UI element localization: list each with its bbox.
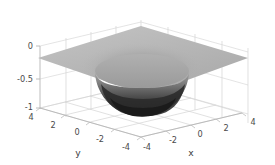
x-tick-labels: -4 -2 0 2 4: [143, 117, 256, 152]
y-tick-label: -4: [122, 142, 130, 152]
z-tick-marks: [36, 46, 40, 108]
z-tick-label: -0.5: [17, 74, 33, 84]
x-tick-marks: [141, 113, 246, 140]
plot-canvas: 0 -0.5 -1 4 2 0 -2 -4 -4 -2 0 2 4 y x: [0, 0, 275, 165]
y-tick-label: 2: [50, 120, 55, 130]
z-tick-label: 0: [28, 41, 33, 51]
z-tick-label: -1: [25, 102, 33, 112]
y-tick-label: 0: [74, 127, 79, 137]
x-tick-label: 0: [197, 129, 202, 139]
y-tick-label: -2: [96, 134, 104, 144]
x-tick-label: 2: [223, 123, 228, 133]
z-tick-labels: 0 -0.5 -1: [17, 41, 33, 112]
x-tick-label: -4: [143, 142, 151, 152]
well-rim: [95, 54, 189, 88]
x-tick-label: -2: [169, 135, 177, 145]
x-tick-label: 4: [250, 117, 255, 127]
surface-plot-figure: 0 -0.5 -1 4 2 0 -2 -4 -4 -2 0 2 4 y x: [0, 0, 275, 165]
x-axis-title: x: [188, 147, 194, 158]
y-tick-label: 4: [28, 112, 33, 122]
y-axis-title: y: [75, 147, 81, 158]
y-tick-labels: 4 2 0 -2 -4: [28, 112, 130, 152]
